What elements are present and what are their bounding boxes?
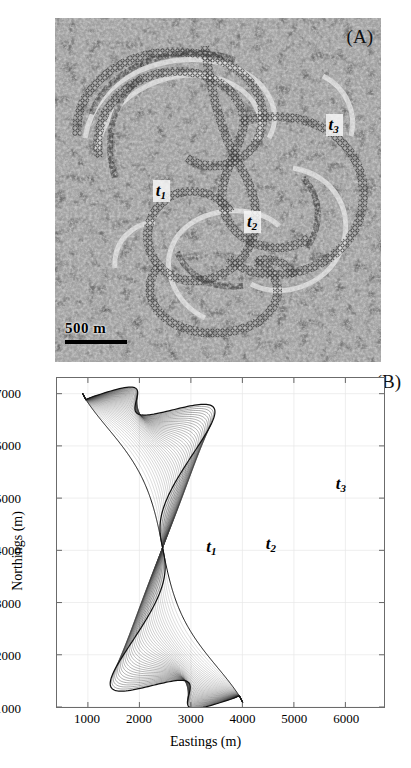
panel-a-time-label-t1: t1 [153, 180, 170, 202]
y-tick-1000: 1000 [0, 702, 21, 715]
scale-bar: 500 m [65, 320, 127, 344]
x-tick-5000: 5000 [281, 712, 307, 725]
x-tick-6000: 6000 [333, 712, 359, 725]
plot-frame [56, 377, 385, 708]
panel-b-time-label-t1: t1 [206, 538, 216, 555]
y-tick-6000: 6000 [0, 439, 21, 452]
axis-ticks [57, 378, 384, 707]
x-tick-4000: 4000 [230, 712, 256, 725]
panel-a-label: (A) [347, 26, 373, 48]
panel-b-time-label-t3: t3 [336, 475, 346, 492]
scale-bar-line [65, 340, 127, 344]
panel-a-time-label-t2: t2 [244, 211, 261, 233]
x-tick-1000: 1000 [74, 712, 100, 725]
panel-b-time-label-t2: t2 [266, 535, 276, 552]
meander-centerline-series [83, 387, 243, 707]
y-tick-2000: 2000 [0, 649, 21, 662]
y-tick-7000: 7000 [0, 386, 21, 399]
scale-bar-label: 500 m [65, 320, 127, 337]
x-tick-3000: 3000 [178, 712, 204, 725]
panel-a-aerial-photo: (A) t1 t2 t3 500 m [55, 18, 381, 362]
panel-b-meander-migration-plot: (B) 1000200030004000500060007000 1000200… [0, 368, 411, 768]
grid-lines [57, 378, 384, 707]
centerline-step-39 [83, 387, 243, 707]
x-tick-2000: 2000 [126, 712, 152, 725]
plot-canvas [57, 378, 384, 707]
aerial-photograph-image [55, 18, 381, 362]
x-axis-title: Eastings (m) [0, 734, 411, 750]
y-axis-title: Northings (m) [10, 481, 26, 621]
panel-a-time-label-t3: t3 [326, 114, 343, 136]
